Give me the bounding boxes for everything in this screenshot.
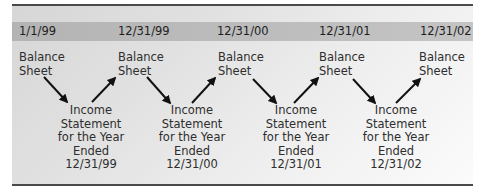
income-statement-label: Income Statement for the Year Ended 12/3…: [351, 104, 441, 172]
income-statement-line4: Ended: [147, 145, 237, 159]
balance-sheet-line2: Sheet: [19, 65, 65, 79]
income-statement-label: Income Statement for the Year Ended 12/3…: [46, 104, 136, 172]
income-statement-line1: Income: [147, 104, 237, 118]
balance-sheet-label: Balance Sheet: [419, 51, 465, 78]
income-statement-label: Income Statement for the Year Ended 12/3…: [147, 104, 237, 172]
balance-sheet-line2: Sheet: [218, 65, 264, 79]
income-statement-line1: Income: [251, 104, 341, 118]
date-label: 12/31/99: [118, 25, 170, 38]
income-statement-line2: Statement: [251, 118, 341, 132]
income-statement-line2: Statement: [147, 118, 237, 132]
balance-sheet-line1: Balance: [19, 51, 65, 65]
date-label: 12/31/00: [217, 25, 269, 38]
top-rule: [12, 4, 473, 6]
balance-sheet-line2: Sheet: [419, 65, 465, 79]
income-statement-line4: Ended: [46, 145, 136, 159]
balance-sheet-label: Balance Sheet: [118, 51, 164, 78]
balance-sheet-line1: Balance: [319, 51, 365, 65]
income-statement-line2: Statement: [46, 118, 136, 132]
income-statement-line5: 12/31/01: [251, 158, 341, 172]
balance-sheet-label: Balance Sheet: [19, 51, 65, 78]
income-statement-line5: 12/31/99: [46, 158, 136, 172]
date-label: 1/1/99: [19, 25, 56, 38]
balance-sheet-line1: Balance: [218, 51, 264, 65]
income-statement-line2: Statement: [351, 118, 441, 132]
income-statement-label: Income Statement for the Year Ended 12/3…: [251, 104, 341, 172]
income-statement-line5: 12/31/00: [147, 158, 237, 172]
income-statement-line1: Income: [46, 104, 136, 118]
balance-sheet-label: Balance Sheet: [319, 51, 365, 78]
income-statement-line4: Ended: [351, 145, 441, 159]
balance-sheet-line2: Sheet: [319, 65, 365, 79]
income-statement-line3: for the Year: [251, 131, 341, 145]
income-statement-line1: Income: [351, 104, 441, 118]
balance-sheet-line1: Balance: [419, 51, 465, 65]
bottom-rule: [12, 184, 473, 186]
date-label: 12/31/02: [420, 25, 472, 38]
balance-sheet-line2: Sheet: [118, 65, 164, 79]
balance-sheet-line1: Balance: [118, 51, 164, 65]
date-label: 12/31/01: [319, 25, 371, 38]
income-statement-line3: for the Year: [147, 131, 237, 145]
income-statement-line3: for the Year: [46, 131, 136, 145]
income-statement-line5: 12/31/02: [351, 158, 441, 172]
balance-sheet-label: Balance Sheet: [218, 51, 264, 78]
income-statement-line3: for the Year: [351, 131, 441, 145]
income-statement-line4: Ended: [251, 145, 341, 159]
